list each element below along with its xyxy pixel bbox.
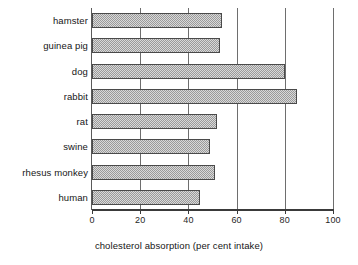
bar-row (92, 64, 333, 79)
bar-dog (92, 64, 285, 79)
bar-guinea-pig (92, 38, 220, 53)
category-axis-labels: hamsterguinea pigdograbbitratswinerhesus… (0, 8, 88, 210)
bar-row (92, 89, 333, 104)
bar-rhesus-monkey (92, 165, 215, 180)
bar-row (92, 13, 333, 28)
bar-rat (92, 114, 217, 129)
bar-human (92, 190, 200, 205)
x-tick-label-40: 40 (173, 215, 203, 226)
x-tick-0 (92, 209, 93, 214)
category-label-dog: dog (2, 66, 88, 77)
bar-row (92, 38, 333, 53)
category-label-swine: swine (2, 141, 88, 152)
bar-swine (92, 139, 210, 154)
gridline-100 (333, 8, 334, 210)
x-tick-label-0: 0 (77, 215, 107, 226)
bar-hamster (92, 13, 222, 28)
x-tick-60 (237, 209, 238, 214)
x-tick-100 (333, 209, 334, 214)
x-tick-80 (285, 209, 286, 214)
x-tick-label-20: 20 (125, 215, 155, 226)
category-label-human: human (2, 192, 88, 203)
category-label-hamster: hamster (2, 15, 88, 26)
bar-chart: hamsterguinea pigdograbbitratswinerhesus… (0, 0, 358, 265)
x-tick-40 (188, 209, 189, 214)
x-tick-label-100: 100 (318, 215, 348, 226)
bar-rabbit (92, 89, 297, 104)
x-tick-20 (140, 209, 141, 214)
bar-row (92, 114, 333, 129)
x-tick-label-80: 80 (270, 215, 300, 226)
bar-row (92, 139, 333, 154)
plot-area (92, 8, 333, 210)
bar-row (92, 165, 333, 180)
category-label-guinea-pig: guinea pig (2, 40, 88, 51)
category-label-rabbit: rabbit (2, 91, 88, 102)
x-axis-line (92, 209, 334, 211)
x-tick-label-60: 60 (222, 215, 252, 226)
y-axis-line (91, 8, 92, 210)
category-label-rat: rat (2, 116, 88, 127)
category-label-rhesus-monkey: rhesus monkey (2, 167, 88, 178)
bar-row (92, 190, 333, 205)
x-axis-title: cholesterol absorption (per cent intake) (0, 240, 358, 252)
